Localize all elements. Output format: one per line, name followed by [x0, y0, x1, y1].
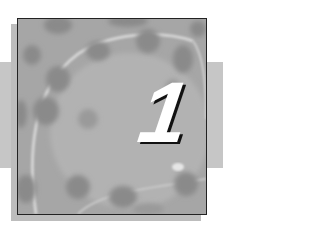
- chapter-number: 1: [140, 72, 190, 152]
- chapter-number-text: 1: [134, 72, 193, 152]
